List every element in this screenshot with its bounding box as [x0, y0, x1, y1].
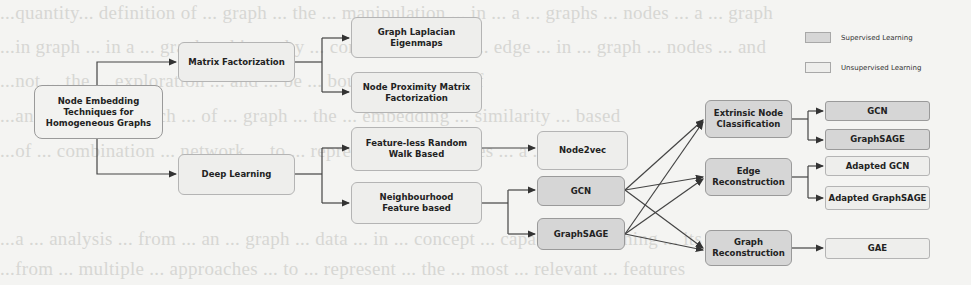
node-graph-reconstruction: Graph Reconstruction — [705, 230, 792, 266]
node-graphsage-mid: GraphSAGE — [537, 218, 625, 250]
node-gcn-right: GCN — [825, 101, 930, 121]
node-label: Extrinsic Node Classification — [712, 108, 785, 130]
node-adapted-gcn: Adapted GCN — [825, 156, 930, 176]
node-label: Deep Learning — [202, 169, 272, 180]
unsupervised-swatch — [805, 62, 831, 73]
node-matrix-factorization: Matrix Factorization — [178, 42, 295, 82]
node-label: Matrix Factorization — [188, 57, 284, 68]
node-adapted-graphsage: Adapted GraphSAGE — [825, 186, 930, 210]
node-graph-laplacian: Graph Laplacian Eigenmaps — [351, 17, 482, 58]
node-gae: GAE — [825, 238, 930, 259]
node-label: Graph Laplacian Eigenmaps — [374, 27, 459, 49]
node-label: Node Proximity Matrix Factorization — [360, 82, 473, 104]
node-graphsage-right: GraphSAGE — [825, 129, 930, 150]
node-node2vec: Node2vec — [537, 131, 628, 170]
node-edge-reconstruction: Edge Reconstruction — [705, 158, 792, 196]
node-root-label: Node Embedding Techniques for Homogeneou… — [41, 96, 156, 129]
supervised-swatch — [805, 32, 831, 43]
legend-supervised: Supervised Learning — [805, 32, 913, 43]
node-label: Adapted GCN — [846, 161, 910, 172]
node-feature-less: Feature-less Random Walk Based — [351, 127, 482, 171]
legend-supervised-label: Supervised Learning — [841, 34, 913, 42]
legend-unsupervised-label: Unsupervised Learning — [841, 64, 921, 72]
node-label: Feature-less Random Walk Based — [364, 138, 469, 160]
node-label: GraphSAGE — [850, 134, 905, 145]
node-deep-learning: Deep Learning — [178, 154, 295, 195]
node-label: Neighbourhood Feature based — [374, 192, 459, 214]
node-label: GAE — [868, 243, 887, 254]
legend-unsupervised: Unsupervised Learning — [805, 62, 921, 73]
node-label: Edge Reconstruction — [710, 166, 787, 188]
node-gcn-mid: GCN — [537, 176, 625, 206]
node-label: GraphSAGE — [554, 229, 609, 240]
node-root: Node Embedding Techniques for Homogeneou… — [34, 85, 163, 139]
node-label: Graph Reconstruction — [710, 237, 787, 259]
node-node-proximity: Node Proximity Matrix Factorization — [351, 72, 482, 113]
node-label: GCN — [571, 186, 591, 197]
node-label: Node2vec — [559, 145, 606, 156]
node-label: Adapted GraphSAGE — [829, 193, 927, 204]
node-extrinsic-classification: Extrinsic Node Classification — [705, 100, 792, 138]
node-neighbourhood: Neighbourhood Feature based — [351, 182, 482, 224]
node-label: GCN — [867, 106, 887, 117]
